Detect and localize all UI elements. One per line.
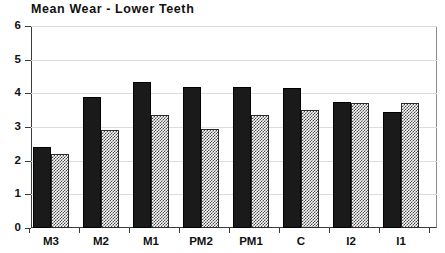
x-tick-end	[429, 228, 430, 233]
gridline-6	[31, 26, 437, 27]
x-axis-label-M2: M2	[93, 236, 109, 248]
x-axis-label-I2: I2	[346, 236, 356, 248]
x-axis-label-PM1: PM1	[239, 236, 263, 248]
x-tick-C	[279, 228, 280, 233]
bar-I2-series-1	[333, 102, 351, 228]
bar-M2-series-1	[83, 97, 101, 228]
bar-M3-series-2	[51, 154, 69, 228]
x-axis-label-I1: I1	[396, 236, 406, 248]
y-tick-5	[25, 60, 31, 61]
chart-title: Mean Wear - Lower Teeth	[31, 2, 194, 16]
y-tick-0	[25, 228, 31, 229]
x-tick-M1	[129, 228, 130, 233]
x-axis-label-M1: M1	[143, 236, 159, 248]
x-tick-I2	[329, 228, 330, 233]
bar-PM2-series-2	[201, 129, 219, 228]
bar-C-series-1	[283, 88, 301, 228]
bar-M3-series-1	[33, 147, 51, 228]
x-tick-PM2	[179, 228, 180, 233]
y-axis-label-4: 4	[0, 87, 21, 99]
y-axis-label-1: 1	[0, 188, 21, 200]
x-tick-M2	[79, 228, 80, 233]
y-axis-label-5: 5	[0, 54, 21, 66]
y-axis-label-2: 2	[0, 155, 21, 167]
bar-I1-series-1	[383, 112, 401, 228]
y-tick-4	[25, 93, 31, 94]
bar-M2-series-2	[101, 130, 119, 228]
bar-PM1-series-1	[233, 87, 251, 228]
x-tick-I1	[379, 228, 380, 233]
x-axis-label-C: C	[297, 236, 305, 248]
x-tick-M3	[29, 228, 30, 233]
plot-area	[31, 26, 437, 228]
bar-I1-series-2	[401, 103, 419, 228]
y-axis-label-3: 3	[0, 121, 21, 133]
bar-I2-series-2	[351, 103, 369, 228]
x-axis-label-M3: M3	[43, 236, 59, 248]
y-tick-6	[25, 26, 31, 27]
bar-chart: Mean Wear - Lower Teeth 0123456 M3M2M1PM…	[0, 0, 445, 253]
x-axis-label-PM2: PM2	[189, 236, 213, 248]
bar-PM2-series-1	[183, 87, 201, 228]
y-tick-1	[25, 194, 31, 195]
y-axis-label-6: 6	[0, 20, 21, 32]
x-tick-PM1	[229, 228, 230, 233]
bar-M1-series-1	[133, 82, 151, 228]
bar-M1-series-2	[151, 115, 169, 228]
y-axis-label-0: 0	[0, 222, 21, 234]
y-tick-3	[25, 127, 31, 128]
bar-C-series-2	[301, 110, 319, 228]
y-tick-2	[25, 161, 31, 162]
bar-PM1-series-2	[251, 115, 269, 228]
gridline-5	[31, 60, 437, 61]
